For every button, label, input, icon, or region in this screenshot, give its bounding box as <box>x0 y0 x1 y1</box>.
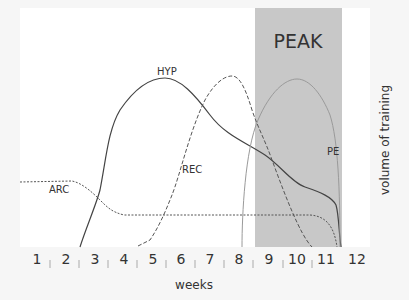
week-label: 9 <box>265 251 274 267</box>
week-label: 7 <box>206 251 215 267</box>
pe-label: PE <box>327 146 339 157</box>
week-label: 3 <box>91 251 100 267</box>
rec-label: REC <box>182 164 202 175</box>
week-label: 1 <box>33 251 42 267</box>
hyp-label: HYP <box>157 66 177 77</box>
week-label: 6 <box>177 251 186 267</box>
week-label: 8 <box>235 251 244 267</box>
week-label: 4 <box>120 251 129 267</box>
week-label: 11 <box>317 251 335 267</box>
week-label: 2 <box>62 251 71 267</box>
peak-label: PEAK <box>274 30 323 52</box>
chart: PEAK ARC HYP REC PE 1 2 3 4 5 6 7 8 9 10… <box>0 0 409 300</box>
week-label: 12 <box>348 251 366 267</box>
week-label: 10 <box>288 251 306 267</box>
week-label: 5 <box>149 251 158 267</box>
x-axis-labels: 1 2 3 4 5 6 7 8 9 10 11 12 <box>33 251 366 267</box>
x-axis-title: weeks <box>175 278 213 292</box>
y-axis-title: volume of training <box>378 85 392 195</box>
arc-label: ARC <box>49 184 69 195</box>
